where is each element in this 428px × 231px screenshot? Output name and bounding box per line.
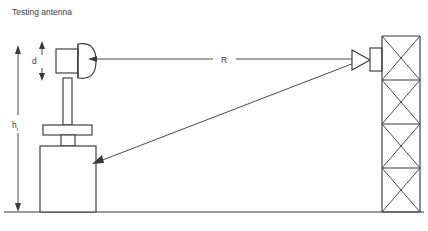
lattice-tower-icon bbox=[382, 36, 420, 212]
horn-antenna-icon bbox=[56, 44, 96, 79]
antenna-range-diagram: Testing antenna d ht R bbox=[0, 0, 428, 231]
antenna-mast-icon bbox=[63, 78, 72, 125]
diagram-canvas: Testing antenna d ht R bbox=[0, 0, 428, 231]
tower-horn-antenna-icon bbox=[352, 48, 382, 71]
height-dimension-subscript: t bbox=[17, 126, 19, 132]
page-title: Testing antenna bbox=[12, 7, 72, 17]
aperture-dimension-label: d bbox=[32, 56, 37, 66]
range-dimension-label: R bbox=[221, 55, 227, 65]
reflected-ray-arrow bbox=[92, 60, 362, 164]
mast-base-plate bbox=[43, 125, 92, 146]
height-dimension-label: ht bbox=[12, 120, 19, 132]
equipment-cabinet-icon bbox=[40, 146, 96, 212]
aperture-dimension-arrow bbox=[39, 41, 45, 81]
